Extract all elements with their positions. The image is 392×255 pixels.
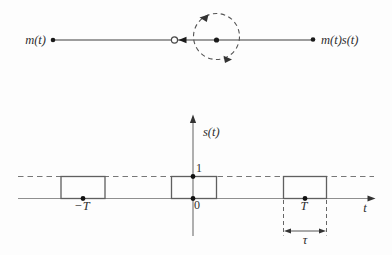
- x-axis-arrowhead-icon: [368, 195, 376, 201]
- amplitude-dot: [191, 174, 196, 179]
- rotation-dashed-circle-icon: [194, 14, 240, 60]
- switch-pivot-dot: [214, 37, 219, 42]
- input-terminal-dot: [51, 38, 56, 43]
- y-axis-label: s(t): [203, 125, 220, 139]
- switch-contact-open-circle-icon: [171, 37, 177, 43]
- neg-period-tick-label: −T: [74, 199, 90, 213]
- pulse-plot: s(t) t 1 0 −T T τ: [18, 115, 376, 248]
- width-arrowhead-left-icon: [284, 228, 291, 233]
- width-arrowhead-right-icon: [319, 228, 326, 233]
- x-axis-label: t: [363, 201, 367, 215]
- input-signal-label: m(t): [25, 33, 46, 47]
- switch-arm-arrowhead-icon: [179, 37, 187, 43]
- amplitude-label: 1: [196, 161, 202, 175]
- origin-label: 0: [194, 198, 200, 212]
- figure-canvas: m(t) m(t)s(t): [0, 0, 392, 255]
- pulse-width-label: τ: [303, 233, 308, 247]
- rotation-arrowhead-top-icon: [200, 15, 209, 23]
- switch-diagram: m(t) m(t)s(t): [25, 14, 358, 64]
- figure-root: m(t) m(t)s(t): [0, 0, 392, 255]
- output-signal-label: m(t)s(t): [321, 33, 359, 47]
- output-terminal-dot: [311, 37, 316, 42]
- pulse-rect-neg-period: [61, 177, 105, 199]
- pulse-rect-period: [284, 177, 327, 199]
- y-axis-arrowhead-icon: [190, 115, 196, 124]
- period-tick-label: T: [301, 199, 309, 213]
- pulse-rect-origin: [172, 177, 217, 199]
